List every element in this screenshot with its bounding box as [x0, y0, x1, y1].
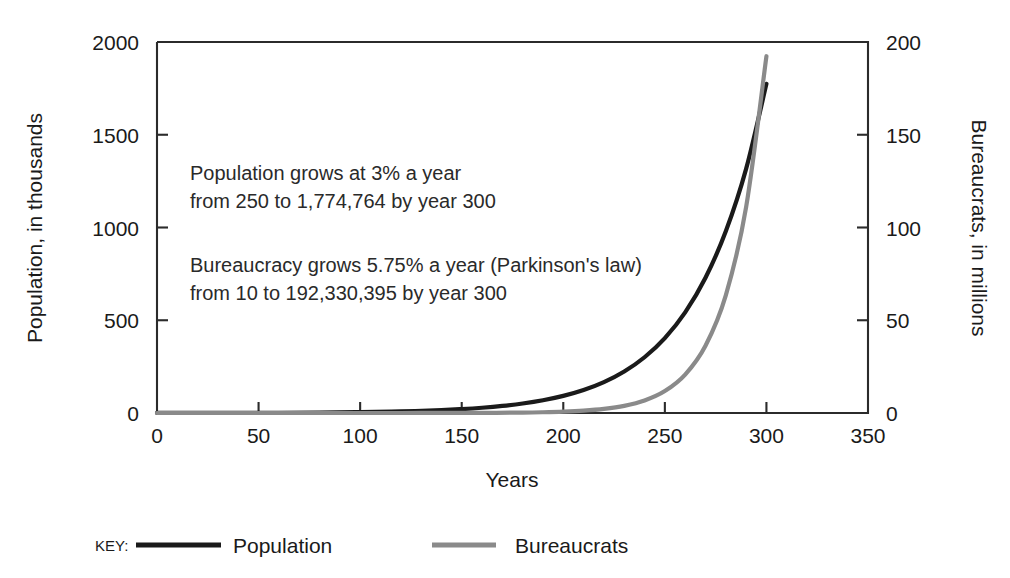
y-axis-title: Population, in thousands	[23, 113, 46, 343]
x-tick-label: 300	[749, 424, 784, 447]
legend-key-label: KEY:	[95, 537, 128, 554]
y2-tick-label: 150	[886, 124, 921, 147]
x-tick-label: 350	[850, 424, 885, 447]
y-tick-label: 1000	[92, 217, 139, 240]
population-bureaucracy-chart: 050100150200250300350 0500100015002000 0…	[0, 0, 1010, 578]
y-tick-label: 2000	[92, 31, 139, 54]
x-tick-label: 150	[444, 424, 479, 447]
x-tick-label: 200	[546, 424, 581, 447]
bureaucracy-annotation-line-2: from 10 to 192,330,395 by year 300	[190, 282, 507, 304]
legend-label-population: Population	[233, 534, 332, 557]
bureaucracy-annotation-line-1: Bureaucracy grows 5.75% a year (Parkinso…	[190, 254, 642, 276]
x-tick-label: 0	[151, 424, 163, 447]
y-tick-label: 1500	[92, 124, 139, 147]
population-annotation-line-2: from 250 to 1,774,764 by year 300	[190, 190, 496, 212]
x-tick-label: 250	[647, 424, 682, 447]
y2-tick-label: 0	[886, 402, 898, 425]
y2-axis-title: Bureaucrats, in millions	[968, 119, 991, 336]
y-tick-label: 0	[127, 402, 139, 425]
y-tick-label: 500	[104, 309, 139, 332]
x-tick-label: 50	[247, 424, 270, 447]
y2-tick-label: 200	[886, 31, 921, 54]
y2-tick-label: 50	[886, 309, 909, 332]
y2-tick-label: 100	[886, 217, 921, 240]
x-tick-label: 100	[343, 424, 378, 447]
legend-label-bureaucrats: Bureaucrats	[515, 534, 628, 557]
x-axis-title: Years	[486, 468, 539, 491]
population-annotation-line-1: Population grows at 3% a year	[190, 162, 462, 184]
